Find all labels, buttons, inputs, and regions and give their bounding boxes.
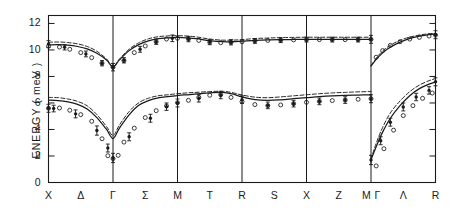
data-point-open-circle xyxy=(392,128,396,132)
data-point-filled xyxy=(122,59,125,62)
data-point-filled xyxy=(434,33,437,36)
data-point-open-circle xyxy=(143,116,147,120)
data-point-filled xyxy=(47,42,50,45)
data-point-filled xyxy=(127,135,130,138)
data-point-open-circle xyxy=(106,154,110,158)
data-point-filled xyxy=(111,65,114,68)
data-point-filled xyxy=(369,97,372,100)
phonon-dispersion-figure: ENERGY ( meV ) 024681012 XΔΓΣMTRSXZMΓΛR xyxy=(0,0,455,223)
data-point-open-circle xyxy=(330,99,334,103)
data-point-open-circle xyxy=(421,96,425,100)
data-point-filled xyxy=(344,98,347,101)
data-point-filled xyxy=(379,139,382,142)
data-point-filled xyxy=(279,38,282,41)
data-point-filled xyxy=(389,120,392,123)
data-point-open-circle xyxy=(401,114,405,118)
data-point-open-circle xyxy=(79,113,83,117)
data-point-filled xyxy=(63,46,66,49)
data-point-filled xyxy=(229,41,232,44)
data-point-filled xyxy=(253,39,256,42)
data-point-open-circle xyxy=(411,104,415,108)
data-point-open-circle xyxy=(253,103,257,107)
data-point-filled xyxy=(138,48,141,51)
data-point-filled xyxy=(149,117,152,120)
data-point-open-circle xyxy=(57,106,61,110)
data-point-open-circle xyxy=(356,97,360,101)
data-point-open-circle xyxy=(186,98,190,102)
data-point-filled xyxy=(434,80,437,83)
data-point-open-circle xyxy=(132,51,136,55)
data-point-open-circle xyxy=(116,153,120,157)
data-point-filled xyxy=(187,37,190,40)
data-point-filled xyxy=(356,38,359,41)
data-point-filled xyxy=(84,52,87,55)
data-point-open-circle xyxy=(57,45,61,49)
data-point-open-circle xyxy=(132,126,136,130)
data-point-filled xyxy=(176,101,179,104)
data-point-open-circle xyxy=(229,95,233,99)
data-point-filled xyxy=(266,104,269,107)
dispersion-plot xyxy=(0,0,455,223)
data-point-filled xyxy=(369,38,372,41)
data-point-open-circle xyxy=(208,93,212,97)
data-point-open-circle xyxy=(143,44,147,48)
data-point-open-circle xyxy=(90,119,94,123)
data-point-open-circle xyxy=(90,56,94,60)
data-point-filled xyxy=(47,107,50,110)
curve-lower-branch-solid-right xyxy=(371,82,436,160)
data-point-open-circle xyxy=(374,164,378,168)
data-point-filled xyxy=(100,62,103,65)
data-point-open-circle xyxy=(100,137,104,141)
data-point-filled xyxy=(240,98,243,101)
data-point-filled xyxy=(165,105,168,108)
data-point-filled xyxy=(106,146,109,149)
data-point-open-circle xyxy=(382,147,386,151)
data-point-filled xyxy=(197,97,200,100)
data-point-filled xyxy=(292,102,295,105)
data-point-open-circle xyxy=(68,108,72,112)
data-point-open-circle xyxy=(68,47,72,51)
data-point-filled xyxy=(208,40,211,43)
data-point-filled xyxy=(331,38,334,41)
data-point-filled xyxy=(171,37,174,40)
data-point-open-circle xyxy=(122,140,126,144)
data-point-filled xyxy=(402,105,405,108)
data-point-filled xyxy=(219,93,222,96)
data-point-open-circle xyxy=(154,109,158,113)
data-point-filled xyxy=(111,156,114,159)
data-point-filled xyxy=(369,158,372,161)
data-point-filled xyxy=(414,95,417,98)
data-point-filled xyxy=(155,40,158,43)
data-point-open-circle xyxy=(279,103,283,107)
data-point-filled xyxy=(52,107,55,110)
data-point-filled xyxy=(95,129,98,132)
data-point-filled xyxy=(427,89,430,92)
data-point-open-circle xyxy=(79,51,83,55)
curve-lower-branch-dashed-right xyxy=(371,79,436,160)
data-point-filled xyxy=(74,112,77,115)
data-point-filled xyxy=(318,100,321,103)
data-point-filled xyxy=(305,38,308,41)
